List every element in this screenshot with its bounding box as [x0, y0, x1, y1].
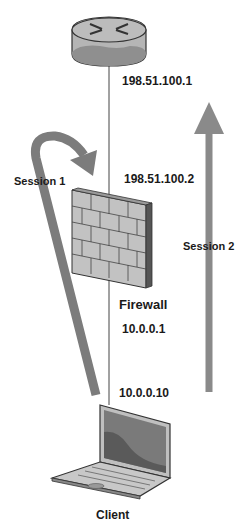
client-ip-label: 10.0.0.10	[119, 386, 169, 400]
firewall-label: Firewall	[119, 297, 167, 312]
firewall-inside-ip-label: 10.0.0.1	[122, 322, 165, 336]
laptop-icon	[52, 405, 170, 499]
session-2-label: Session 2	[183, 240, 234, 252]
router-icon	[72, 17, 146, 66]
session-1-label: Session 1	[14, 175, 65, 187]
router-ip-label: 198.51.100.1	[122, 74, 192, 88]
client-label: Client	[96, 508, 129, 522]
firewall-outside-ip-label: 198.51.100.2	[124, 172, 194, 186]
firewall-icon	[72, 188, 152, 288]
